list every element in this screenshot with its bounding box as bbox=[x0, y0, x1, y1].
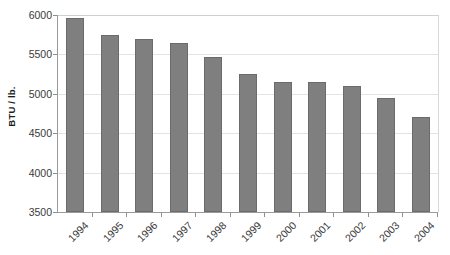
bar bbox=[204, 57, 222, 212]
bar bbox=[274, 82, 292, 212]
gridline bbox=[58, 15, 438, 16]
x-tick-mark bbox=[195, 213, 196, 217]
x-tick-label: 2001 bbox=[300, 219, 333, 252]
plot-area bbox=[57, 15, 438, 213]
x-tick-label: 1996 bbox=[127, 219, 160, 252]
x-tick-label: 1995 bbox=[93, 219, 126, 252]
bar bbox=[66, 18, 84, 212]
x-tick-label: 1994 bbox=[58, 219, 91, 252]
x-tick-mark bbox=[264, 213, 265, 217]
plot-right-border bbox=[438, 15, 439, 212]
y-tick-label: 4000 bbox=[0, 167, 52, 179]
bar bbox=[101, 35, 119, 212]
y-tick-label: 3500 bbox=[0, 206, 52, 218]
x-tick-mark bbox=[437, 213, 438, 217]
y-tick-label: 4500 bbox=[0, 127, 52, 139]
x-tick-mark bbox=[161, 213, 162, 217]
bar-chart: BTU / lb. 600055005000450040003500 19941… bbox=[0, 0, 450, 255]
x-tick-mark bbox=[368, 213, 369, 217]
bar bbox=[308, 82, 326, 212]
x-tick-label: 2004 bbox=[404, 219, 437, 252]
bar bbox=[343, 86, 361, 212]
y-axis-title: BTU / lb. bbox=[0, 0, 22, 212]
x-tick-mark bbox=[299, 213, 300, 217]
x-tick-mark bbox=[230, 213, 231, 217]
x-tick-mark bbox=[92, 213, 93, 217]
x-tick-label: 2000 bbox=[265, 219, 298, 252]
x-tick-label: 2003 bbox=[369, 219, 402, 252]
x-tick-mark bbox=[333, 213, 334, 217]
x-tick-label: 1998 bbox=[196, 219, 229, 252]
y-tick-label: 5000 bbox=[0, 88, 52, 100]
x-tick-mark bbox=[126, 213, 127, 217]
y-tick-label: 5500 bbox=[0, 48, 52, 60]
bar bbox=[239, 74, 257, 212]
bar bbox=[377, 98, 395, 212]
x-tick-mark bbox=[402, 213, 403, 217]
bar bbox=[170, 43, 188, 212]
x-tick-label: 1997 bbox=[162, 219, 195, 252]
bar bbox=[412, 117, 430, 212]
x-tick-label: 2002 bbox=[335, 219, 368, 252]
x-tick-label: 1999 bbox=[231, 219, 264, 252]
bar bbox=[135, 39, 153, 212]
y-tick-label: 6000 bbox=[0, 9, 52, 21]
